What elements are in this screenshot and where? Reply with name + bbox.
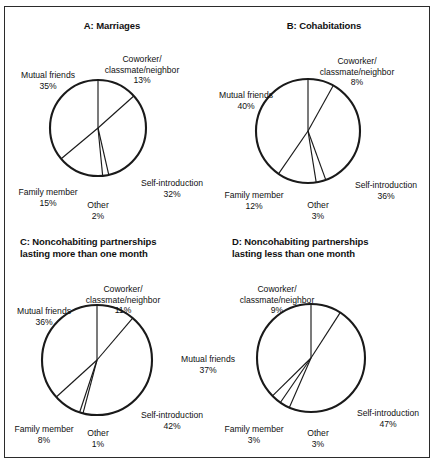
panel-a-label-coworker: Coworker/ classmate/neighbor 13% [82,44,202,96]
panel-a-marriages: A: Marriages Coworker/ classmate/neighbo… [6,8,218,232]
panel-d-label-mutual: Mutual friends 37% [166,344,250,386]
panel-d-label-self: Self-introduction 47% [344,398,432,440]
panel-b-label-self: Self-introduction 36% [342,170,430,212]
panel-b-label-family: Family member 12% [212,180,296,222]
panel-b-cohabitations: B: Cohabitations Coworker/ classmate/nei… [218,8,430,232]
panel-b-label-coworker: Coworker/ classmate/neighbor 8% [296,46,418,98]
panel-b-label-mutual: Mutual friends 40% [204,80,288,122]
panel-d-label-coworker: Coworker/ classmate/neighbor 9% [216,274,338,326]
panel-c-label-mutual: Mutual friends 36% [2,296,86,338]
panel-a-label-mutual: Mutual friends 35% [6,60,90,102]
figure-root: A: Marriages Coworker/ classmate/neighbo… [0,0,437,464]
panel-c-label-self: Self-introduction 42% [128,400,216,442]
panel-a-label-self: Self-introduction 32% [128,168,216,210]
panel-a-label-other: Other 2% [74,190,122,232]
panel-d-noncohabiting-less-than-one-month: D: Noncohabiting partnerships lasting le… [218,232,430,458]
panel-d-label-other: Other 3% [294,418,342,460]
panel-b-label-other: Other 3% [294,190,342,232]
panel-c-label-other: Other 1% [74,418,122,460]
panel-d-label-family: Family member 3% [212,414,296,456]
